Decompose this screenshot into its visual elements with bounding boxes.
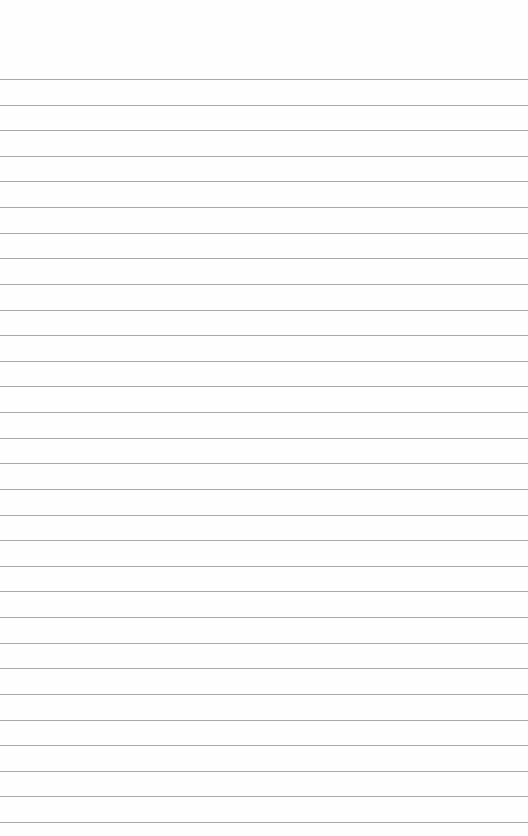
ruled-line bbox=[0, 566, 528, 567]
lined-paper-page bbox=[0, 0, 528, 836]
ruled-line bbox=[0, 720, 528, 721]
ruled-line bbox=[0, 233, 528, 234]
ruled-line bbox=[0, 822, 528, 823]
ruled-line bbox=[0, 515, 528, 516]
ruled-line bbox=[0, 745, 528, 746]
ruled-line bbox=[0, 284, 528, 285]
ruled-line bbox=[0, 105, 528, 106]
ruled-line bbox=[0, 643, 528, 644]
ruled-line bbox=[0, 181, 528, 182]
ruled-line bbox=[0, 694, 528, 695]
ruled-line bbox=[0, 412, 528, 413]
ruled-line bbox=[0, 130, 528, 131]
ruled-line bbox=[0, 489, 528, 490]
ruled-line bbox=[0, 771, 528, 772]
ruled-line bbox=[0, 386, 528, 387]
ruled-line bbox=[0, 617, 528, 618]
ruled-line bbox=[0, 668, 528, 669]
ruled-line bbox=[0, 156, 528, 157]
ruled-line bbox=[0, 335, 528, 336]
ruled-line bbox=[0, 463, 528, 464]
ruled-line bbox=[0, 310, 528, 311]
ruled-line bbox=[0, 540, 528, 541]
ruled-line bbox=[0, 207, 528, 208]
ruled-line bbox=[0, 361, 528, 362]
ruled-line bbox=[0, 438, 528, 439]
ruled-line bbox=[0, 258, 528, 259]
ruled-line bbox=[0, 591, 528, 592]
ruled-line bbox=[0, 796, 528, 797]
ruled-line bbox=[0, 79, 528, 80]
